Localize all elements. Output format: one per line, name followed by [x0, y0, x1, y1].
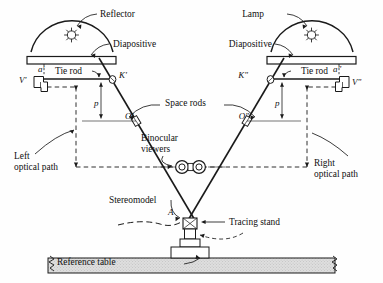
tracing-stand-column	[185, 229, 196, 239]
right-projector-group	[187, 21, 356, 222]
lamp-leader	[287, 14, 307, 26]
label-tracing-stand: Tracing stand	[229, 217, 280, 227]
label-space-rods: Space rods	[165, 98, 206, 108]
left-projector-group	[27, 21, 196, 222]
label-left-optical-path-1: Left	[14, 151, 30, 161]
right-optical-path-dashes	[191, 87, 336, 167]
tracing-stand-base	[171, 247, 209, 258]
label-diapositive-right: Diapositive	[229, 39, 272, 49]
tie-rod-right-leader-arrow	[282, 73, 286, 77]
label-diapositive-left: Diapositive	[113, 39, 156, 49]
label-reflector: Reflector	[100, 9, 136, 19]
figure-canvas: Reflector Diapositive Lamp Diapositive T…	[0, 0, 383, 283]
label-right-optical-path-2: optical path	[314, 169, 358, 179]
label-tie-rod-right: Tie rod	[301, 66, 328, 76]
label-v-prime: V'	[19, 75, 27, 85]
lamp-starburst-left	[64, 28, 79, 43]
binocular-viewers-group	[158, 156, 225, 173]
label-v-double-prime: V"	[352, 77, 361, 87]
viewer-eyepiece-right-inner	[196, 164, 202, 170]
reflector-dome-right	[271, 21, 353, 52]
binocular-viewers-leader	[162, 156, 172, 166]
label-right-optical-path-1: Right	[314, 158, 335, 168]
label-a-double-prime: a"	[333, 64, 342, 74]
tie-rod-left-leader-arrow	[97, 73, 101, 77]
label-k-prime: K'	[118, 70, 128, 80]
label-tie-rod-left: Tie rod	[55, 66, 82, 76]
k-prime-joint	[109, 76, 116, 84]
tracing-stand-body	[180, 239, 200, 247]
label-a-prime: a'	[38, 64, 46, 74]
tracing-stand-leader-upper-arrow	[201, 220, 206, 224]
label-o-prime: O'	[125, 111, 134, 121]
viewer-bridge	[188, 163, 193, 170]
k-double-prime-joint	[267, 76, 274, 84]
left-optical-path-leader	[35, 130, 74, 154]
label-left-optical-path-2: optical path	[14, 162, 58, 172]
lamp-starburst-right	[304, 28, 319, 43]
label-reference-table: Reference table	[57, 257, 116, 267]
right-optical-path-leader	[312, 133, 348, 156]
tracing-stand-leader-lower	[200, 233, 243, 239]
diapositive-right-leader	[275, 44, 293, 55]
viewer-eyepiece-left-inner	[179, 164, 185, 170]
reflector-leader	[77, 14, 97, 26]
label-binocular-viewers-1: Binocular	[141, 133, 179, 143]
stereoplotter-diagram: Reflector Diapositive Lamp Diapositive T…	[0, 0, 383, 283]
tracing-stand-leader-lower-arrow	[200, 234, 205, 238]
label-stereomodel: Stereomodel	[109, 195, 157, 205]
label-k-double-prime: K"	[237, 70, 248, 80]
diapositive-left-leader	[91, 44, 109, 55]
reflector-dome-left	[31, 21, 113, 52]
label-o-double-prime: O"	[239, 111, 249, 121]
label-p-left: p	[93, 98, 99, 108]
label-lamp: Lamp	[242, 9, 264, 19]
label-binocular-viewers-2: viewers	[141, 144, 171, 154]
label-model-point-a: A	[167, 207, 174, 217]
left-optical-path-leader-arrow	[69, 130, 74, 134]
label-p-right: p	[274, 98, 280, 108]
p-dimension-right	[247, 83, 301, 122]
stereomodel-surface-curve	[118, 221, 183, 225]
